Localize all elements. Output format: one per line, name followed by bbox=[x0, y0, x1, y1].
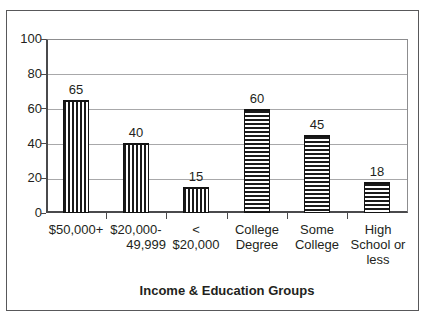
x-label-line-1: < bbox=[166, 222, 226, 237]
x-label-income-under-20000: < $20,000 bbox=[166, 222, 226, 252]
x-label-line-1: Some bbox=[287, 222, 347, 237]
bar-income-50000-plus[interactable] bbox=[63, 100, 89, 213]
bar-income-under-20000[interactable] bbox=[183, 187, 209, 213]
x-tick-mark-1 bbox=[166, 213, 167, 219]
x-label-income-20000-49999: $20,000- 49,999 bbox=[106, 222, 166, 252]
bar-slot-2: 15 bbox=[166, 39, 226, 213]
x-label-line-1: College bbox=[227, 222, 287, 237]
y-tick-label-0: 0 bbox=[8, 206, 42, 219]
bar-value-label-4: 45 bbox=[310, 118, 324, 131]
x-label-line-2: 49,999 bbox=[106, 237, 166, 252]
bar-education-some-college[interactable] bbox=[304, 135, 330, 213]
y-tick-label-80: 80 bbox=[8, 67, 42, 80]
bar-value-label-2: 15 bbox=[189, 170, 203, 183]
x-label-line-1: High bbox=[347, 222, 409, 237]
y-tick-mark-0 bbox=[41, 213, 46, 214]
y-tick-label-40: 40 bbox=[8, 137, 42, 150]
bar-slot-0: 65 bbox=[46, 39, 106, 213]
bar-value-label-1: 40 bbox=[129, 126, 143, 139]
x-tick-mark-2 bbox=[227, 213, 228, 219]
y-tick-label-100: 100 bbox=[8, 32, 42, 45]
bar-income-20000-49999[interactable] bbox=[123, 143, 149, 213]
bar-value-label-0: 65 bbox=[69, 83, 83, 96]
x-label-education-some-college: Some College bbox=[287, 222, 347, 252]
x-label-line-2: $20,000 bbox=[166, 237, 226, 252]
bar-slot-5: 18 bbox=[347, 39, 407, 213]
bar-value-label-3: 60 bbox=[250, 92, 264, 105]
x-label-education-high-school-or-less: High School or less bbox=[347, 222, 409, 267]
y-tick-label-60: 60 bbox=[8, 102, 42, 115]
x-tick-mark-4 bbox=[347, 213, 348, 219]
bar-slot-3: 60 bbox=[227, 39, 287, 213]
bar-education-college-degree[interactable] bbox=[244, 109, 270, 213]
bar-value-label-5: 18 bbox=[370, 165, 384, 178]
y-tick-label-20: 20 bbox=[8, 171, 42, 184]
x-label-line-2: College bbox=[287, 237, 347, 252]
chart-screenshot: 100 80 60 40 20 0 65 40 15 60 bbox=[0, 0, 426, 319]
x-label-line-3: less bbox=[347, 252, 409, 267]
x-axis-title: Income & Education Groups bbox=[46, 283, 408, 298]
x-label-income-50000-plus: $50,000+ bbox=[46, 222, 106, 237]
bar-slot-4: 45 bbox=[287, 39, 347, 213]
x-axis-labels: $50,000+ $20,000- 49,999 < $20,000 Colle… bbox=[46, 222, 408, 280]
x-label-line-1: $50,000+ bbox=[46, 222, 106, 237]
bar-education-high-school-or-less[interactable] bbox=[364, 182, 390, 213]
x-tick-mark-3 bbox=[287, 213, 288, 219]
x-label-line-1: $20,000- bbox=[106, 222, 166, 237]
x-label-line-2: Degree bbox=[227, 237, 287, 252]
x-label-line-2: School or bbox=[347, 237, 409, 252]
bars-layer: 65 40 15 60 45 18 bbox=[46, 39, 408, 213]
bar-slot-1: 40 bbox=[106, 39, 166, 213]
x-tick-mark-0 bbox=[106, 213, 107, 219]
x-label-education-college-degree: College Degree bbox=[227, 222, 287, 252]
y-axis-ticks: 100 80 60 40 20 0 bbox=[4, 39, 42, 213]
